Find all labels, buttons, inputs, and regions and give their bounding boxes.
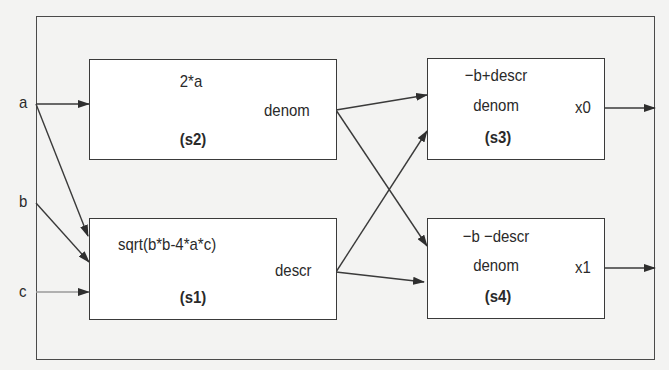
input-label-b: b	[19, 193, 27, 210]
block-s2-expression: 2*a	[180, 73, 202, 90]
block-s4-tag: (s4)	[485, 288, 512, 305]
block-s1-tag: (s1)	[180, 289, 207, 306]
block-s3-tag: (s3)	[485, 129, 512, 146]
block-s4-numerator: −b −descr	[463, 228, 530, 245]
block-s4-denominator: denom	[473, 257, 519, 274]
block-s3-output-x0: x0	[575, 99, 591, 116]
block-s1-expression: sqrt(b*b-4*a*c)	[118, 236, 216, 253]
block-s4-output-x1: x1	[575, 259, 591, 276]
block-s2-output-denom: denom	[264, 102, 310, 119]
input-label-a: a	[19, 94, 27, 111]
block-s3-numerator: −b+descr	[465, 67, 527, 84]
block-s3-denominator: denom	[473, 97, 519, 114]
block-s1-output-descr: descr	[275, 262, 312, 279]
input-label-c: c	[19, 283, 26, 300]
block-s2-tag: (s2)	[180, 131, 207, 148]
